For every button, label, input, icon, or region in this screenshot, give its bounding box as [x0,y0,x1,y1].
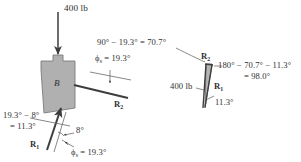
phi-s-right-label: ϕs = 19.3° [95,54,130,64]
interior-angle-expression: 180° − 70.7° − 11.3° = 98.0° [218,60,291,81]
reaction-r2-arrow [74,70,131,98]
reaction-r1-label-right: R1 [214,82,223,92]
reaction-r1-label-left: R1 [30,140,39,150]
reaction-r2-label-left: R2 [114,100,123,110]
figure-canvas: 400 lb B ϕs = 19.3° R2 19.3° − 8° = 11.3… [0,0,301,162]
angle-difference-label: 19.3° − 8° = 11.3° [3,110,39,131]
applied-load-label: 400 lb [64,3,88,13]
r2-subscript: 2 [120,104,123,110]
r1-right-subscript: 1 [220,86,223,92]
phi-value: 19.3° [111,53,130,63]
phi-bottom-value: 19.3° [87,147,106,157]
interior-angle-line2: = 98.0° [218,71,291,82]
angle-difference-line1: 19.3° − 8° [3,110,39,121]
interior-angle-line1: 180° − 70.7° − 11.3° [218,60,291,71]
top-angle-expression: 90° − 19.3° = 70.7° [97,38,166,48]
bottom-angle-label: 11.3° [215,98,234,108]
phi-subscript: s [100,58,102,64]
r1-subscript: 1 [36,144,39,150]
r2-right-subscript: 2 [207,56,210,62]
phi-bottom-equals: = [80,147,85,157]
phi-bottom-subscript: s [76,152,78,158]
block-b-label: B [54,78,60,88]
phi-s-bottom-label: ϕs = 19.3° [71,148,106,158]
reaction-r2-label-right: R2 [201,52,210,62]
angle-difference-line2: = 11.3° [3,121,39,132]
load-label-right: 400 lb [170,82,192,92]
phi-equals: = [104,53,109,63]
incline-angle-label: 8° [76,126,84,136]
